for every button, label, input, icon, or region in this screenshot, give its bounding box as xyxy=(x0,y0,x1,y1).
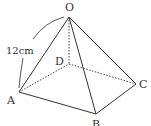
edge-AB xyxy=(19,92,96,114)
vertex-label-O: O xyxy=(65,1,74,14)
measurement-arc-upper xyxy=(33,17,64,39)
pyramid-diagram: O D A B C 12cm xyxy=(0,0,151,126)
edge-BC xyxy=(96,84,136,114)
vertex-label-B: B xyxy=(92,118,100,126)
vertex-label-C: C xyxy=(139,78,147,91)
edge-AD xyxy=(19,64,69,92)
edge-OC xyxy=(69,17,136,84)
vertex-label-D: D xyxy=(55,55,64,68)
measurement-label: 12cm xyxy=(6,45,34,56)
vertex-label-A: A xyxy=(6,94,16,107)
measurement-arc-lower xyxy=(19,58,23,88)
